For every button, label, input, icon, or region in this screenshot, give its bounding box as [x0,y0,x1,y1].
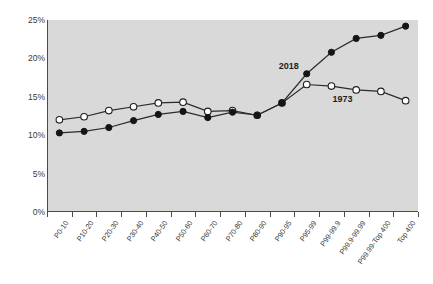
data-point-marker [106,124,112,130]
data-point-marker [56,117,63,124]
x-axis-tick-mark [96,212,97,217]
x-axis-tick-mark [344,212,345,217]
x-axis-tick-mark [418,212,419,217]
data-point-marker [328,49,334,55]
series-2018-group [56,23,408,136]
data-point-marker [328,83,335,90]
x-axis-tick-mark [270,212,271,217]
x-axis-tick-mark [319,212,320,217]
data-point-marker [303,81,310,88]
data-point-marker [353,35,359,41]
data-point-marker [378,32,384,38]
data-point-marker [279,100,285,106]
data-point-marker [254,112,260,118]
data-point-marker [229,109,235,115]
series-2018-markers [56,23,408,136]
x-axis-tick-mark [294,212,295,217]
series-1973-group [56,81,409,123]
data-point-marker [56,130,62,136]
series-2018-line [59,26,405,133]
x-axis-tick-mark [171,212,172,217]
data-point-marker [81,113,88,120]
data-point-marker [130,103,137,110]
series-1973-markers [56,81,409,123]
data-point-marker [180,108,186,114]
data-point-marker [403,23,409,29]
x-axis-tick-mark [121,212,122,217]
x-axis-tick-mark [393,212,394,217]
x-axis-tick-mark [369,212,370,217]
data-point-marker [155,111,161,117]
data-point-marker [106,107,113,114]
x-axis-tick-mark [220,212,221,217]
x-axis-tick-mark [195,212,196,217]
x-axis-tick-mark [245,212,246,217]
series-label-2018: 2018 [279,61,299,71]
data-point-marker [204,108,211,115]
x-axis-tick-mark [72,212,73,217]
data-point-marker [180,99,187,106]
x-axis-tick-mark [146,212,147,217]
data-point-marker [402,97,409,104]
data-point-marker [378,88,385,95]
data-point-marker [130,118,136,124]
data-point-marker [353,87,360,94]
line-chart: 0%5%10%15%20%25% 2018 1973 P0-10P10-20P2… [0,0,433,284]
data-point-marker [155,100,162,107]
data-point-marker [81,128,87,134]
series-label-1973: 1973 [332,94,352,104]
data-point-marker [304,71,310,77]
x-axis-tick-mark [47,212,48,217]
data-point-marker [205,114,211,120]
